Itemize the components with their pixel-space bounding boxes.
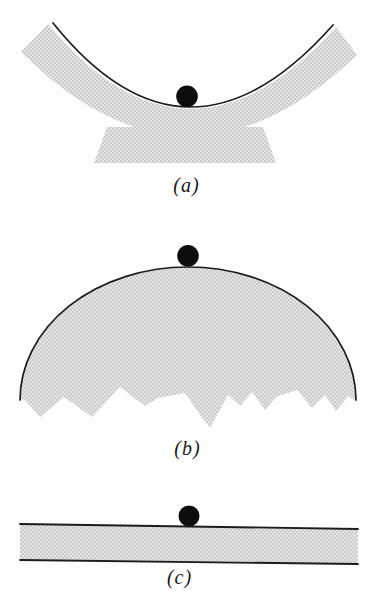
panel-c-diagram: [0, 495, 379, 575]
ball: [176, 86, 198, 108]
panel-b-label: (b): [0, 437, 377, 459]
flat-slab-surface: [20, 524, 358, 564]
concave-surface: [21, 24, 357, 136]
panel-a-label: (a): [0, 174, 376, 196]
ball: [179, 506, 200, 527]
ball: [177, 245, 199, 267]
panel-b-diagram: [0, 235, 379, 435]
equilibrium-figure: (a) (b) (c): [0, 0, 379, 608]
panel-c-label: (c): [0, 566, 369, 588]
convex-dome-surface: [20, 267, 357, 428]
panel-a-diagram: [0, 0, 379, 170]
